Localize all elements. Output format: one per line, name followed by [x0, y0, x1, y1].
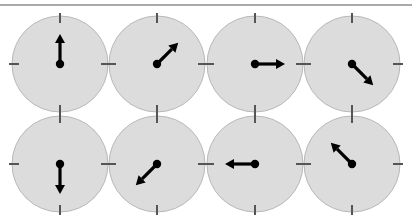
- dial-down-left: [106, 113, 208, 215]
- pivot-dot-icon: [348, 60, 356, 68]
- dial-down: [9, 113, 111, 215]
- pivot-dot-icon: [251, 60, 259, 68]
- pivot-dot-icon: [251, 160, 259, 168]
- pivot-dot-icon: [56, 60, 64, 68]
- dial-diagram: [0, 0, 414, 223]
- dial-left: [204, 113, 306, 215]
- dial-up-right: [106, 13, 208, 115]
- dial-down-right: [301, 13, 403, 115]
- pivot-dot-icon: [348, 160, 356, 168]
- dial-grid: [0, 0, 414, 223]
- dial-up: [9, 13, 111, 115]
- dial-up-left: [301, 113, 403, 215]
- pivot-dot-icon: [56, 160, 64, 168]
- dial-right: [204, 13, 306, 115]
- pivot-dot-icon: [153, 160, 161, 168]
- pivot-dot-icon: [153, 60, 161, 68]
